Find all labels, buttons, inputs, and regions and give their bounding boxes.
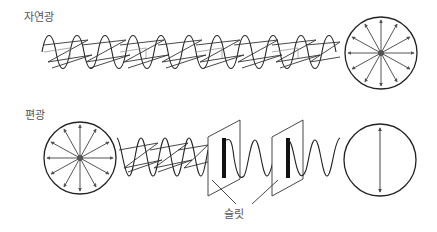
natural-light-wave	[42, 36, 340, 69]
vertical-polarization-circle-icon	[344, 124, 416, 196]
unpolarized-circle-icon	[345, 17, 417, 89]
mixed-wave	[117, 138, 208, 176]
slit-2	[272, 120, 303, 196]
slit-label: 슬릿	[224, 205, 244, 221]
polarized-light-label: 편광	[25, 106, 45, 122]
source-circle-icon	[44, 122, 116, 194]
natural-light-label: 자연광	[24, 8, 54, 24]
slit-1	[208, 120, 240, 196]
polarization-diagram	[0, 0, 437, 232]
